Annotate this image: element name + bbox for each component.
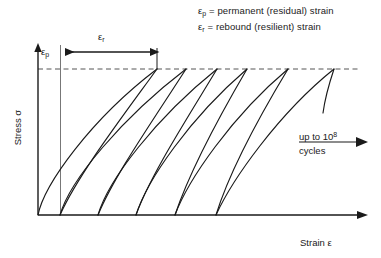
legend-text-rebound-strain: = rebound (resilient) strain [208, 21, 321, 32]
y-axis-label: Stress σ [12, 98, 23, 158]
cycles-arrowhead [356, 137, 368, 147]
x-axis-label: Strain ε [300, 237, 332, 248]
cycles-annotation-line-2: cycles [299, 144, 337, 158]
epsilon-r-annotation: εr [98, 31, 105, 43]
legend-symbol-epsilon-r: εr [198, 21, 205, 32]
cycles-annotation: up to 108 cycles [299, 128, 337, 158]
hysteresis-loop-5-unloading [216, 69, 288, 215]
hysteresis-loop-2-loading [60, 69, 186, 215]
hysteresis-loop-6-unloading-truncated [323, 69, 334, 113]
epsilon-p-annotation: εp [41, 46, 49, 58]
cycles-annotation-line-1: up to 108 [299, 128, 337, 144]
legend-item-permanent-strain: εp = permanent (residual) strain [198, 4, 334, 20]
hysteresis-loop-4-unloading [175, 69, 247, 215]
legend-text-permanent-strain: = permanent (residual) strain [209, 5, 334, 16]
legend-item-rebound-strain: εr = rebound (resilient) strain [198, 20, 334, 36]
hysteresis-loop-3-unloading [136, 69, 217, 215]
hysteresis-loop-3-loading [98, 69, 217, 215]
legend: εp = permanent (residual) strain εr = re… [198, 4, 334, 36]
x-axis-arrowhead [357, 211, 368, 219]
legend-symbol-epsilon-p: εp [198, 5, 206, 16]
